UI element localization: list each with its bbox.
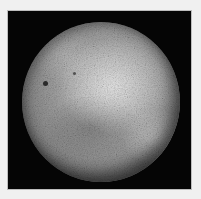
planet-limb-shadow [22, 22, 180, 182]
image-frame [0, 0, 201, 199]
planet-sphere [22, 22, 180, 182]
space-background [8, 11, 191, 189]
